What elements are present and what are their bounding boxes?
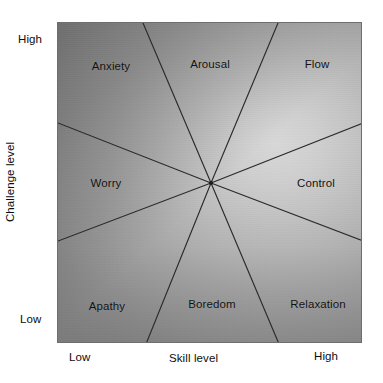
worry-anxiety-divider <box>58 123 211 183</box>
flow-model-diagram: Anxiety Arousal Flow Control Relaxation … <box>0 0 383 383</box>
y-axis-low-label: Low <box>20 313 41 325</box>
x-axis-high-label: High <box>314 350 338 362</box>
control-relaxation-divider <box>211 183 362 241</box>
flow-control-divider <box>211 123 362 183</box>
plot-area: Anxiety Arousal Flow Control Relaxation … <box>57 22 362 343</box>
arousal-flow-divider <box>211 23 278 183</box>
anxiety-arousal-divider <box>143 23 211 183</box>
x-axis-low-label: Low <box>69 351 90 363</box>
boredom-apathy-divider <box>146 183 211 343</box>
x-axis-title: Skill level <box>169 352 218 364</box>
sector-label-worry: Worry <box>91 177 122 189</box>
sector-label-anxiety: Anxiety <box>92 60 130 72</box>
sector-label-flow: Flow <box>305 58 330 70</box>
sector-label-apathy: Apathy <box>89 300 125 312</box>
y-axis-title: Challenge level <box>4 142 16 222</box>
apathy-worry-divider <box>58 183 211 241</box>
center-point-marker <box>209 181 213 185</box>
sector-label-control: Control <box>297 177 335 189</box>
relaxation-boredom-divider <box>211 183 279 343</box>
sector-label-boredom: Boredom <box>188 298 235 310</box>
y-axis-high-label: High <box>18 33 42 45</box>
sector-label-arousal: Arousal <box>190 58 230 70</box>
sector-label-relaxation: Relaxation <box>290 298 345 310</box>
